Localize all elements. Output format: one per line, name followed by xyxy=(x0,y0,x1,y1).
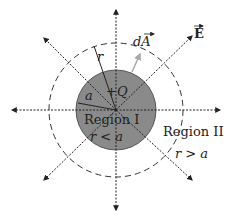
field-label: E xyxy=(194,26,204,41)
svg-text:E: E xyxy=(194,26,204,41)
area-vector-label: dA xyxy=(133,34,154,49)
region2-condition: r > a xyxy=(175,146,208,161)
region1-condition: r < a xyxy=(90,129,123,144)
radius-a-label: a xyxy=(85,88,93,103)
area-vector xyxy=(132,54,140,72)
region1-name: Region I xyxy=(84,112,139,127)
gauss-law-diagram: r a +Q dA E Region I r < a Region II r >… xyxy=(0,0,229,220)
region2-name: Region II xyxy=(163,124,224,139)
charge-label: +Q xyxy=(106,84,128,99)
svg-text:dA: dA xyxy=(133,34,151,49)
radius-r-label: r xyxy=(97,49,104,64)
